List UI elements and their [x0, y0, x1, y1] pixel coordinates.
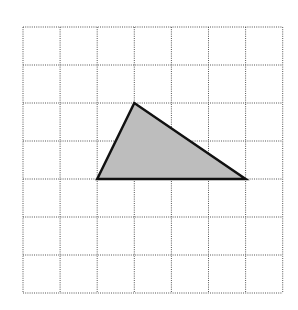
- grid-diagram: [0, 0, 298, 310]
